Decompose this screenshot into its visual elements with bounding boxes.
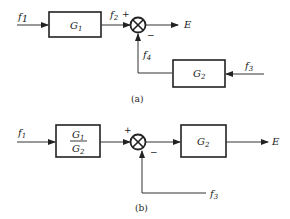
diagram-b: f1 G1 G2 + − G2 E f3 (b)	[17, 125, 280, 213]
diagram-a: f1 G1 f2 + − E f4 G2 f3 (a)	[17, 9, 264, 104]
sum-plus-sign: +	[122, 9, 130, 19]
sum-plus-sign: +	[124, 125, 132, 135]
label-f2: f2	[109, 9, 119, 22]
summing-junction-b	[131, 135, 146, 150]
label-f1: f1	[17, 11, 28, 24]
label-output-e: E	[271, 136, 280, 147]
sum-minus-sign: −	[147, 30, 155, 40]
label-f1: f1	[17, 127, 26, 140]
label-output-e: E	[183, 19, 192, 30]
caption-b: (b)	[135, 203, 148, 213]
label-f3: f3	[209, 188, 219, 201]
sum-minus-sign: −	[150, 147, 158, 157]
label-f4: f4	[142, 49, 151, 62]
summing-junction-a	[131, 18, 146, 33]
block-diagram: f1 G1 f2 + − E f4 G2 f3 (a) f1	[0, 0, 290, 219]
caption-a: (a)	[131, 94, 143, 104]
label-f3: f3	[244, 60, 254, 73]
